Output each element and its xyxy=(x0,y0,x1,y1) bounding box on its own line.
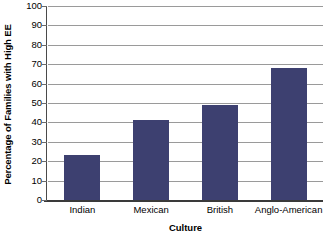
gridline xyxy=(48,25,323,26)
y-axis-tick-mark xyxy=(42,161,47,162)
plot-area xyxy=(48,6,323,200)
y-axis-title-text: Percentage of Families with High EE xyxy=(2,24,13,185)
y-axis-tick-mark xyxy=(42,142,47,143)
x-axis-line xyxy=(44,200,323,202)
x-axis-tick-label: Anglo-American xyxy=(248,204,328,216)
y-axis-tick-label: 60 xyxy=(31,79,42,89)
y-axis-tick-label: 40 xyxy=(31,117,42,127)
y-axis-tick-mark xyxy=(42,25,47,26)
gridline xyxy=(48,64,323,65)
y-axis-tick-mark xyxy=(42,122,47,123)
x-axis-title: Culture xyxy=(48,222,323,233)
y-axis-tick-label: 100 xyxy=(26,1,42,11)
gridline xyxy=(48,45,323,46)
bar xyxy=(271,68,307,200)
y-axis-tick-mark xyxy=(42,103,47,104)
y-axis-tick-mark xyxy=(42,84,47,85)
y-axis-tick-label: 90 xyxy=(31,20,42,30)
y-axis-tick-labels: 0102030405060708090100 xyxy=(14,0,44,200)
y-axis-tick-label: 30 xyxy=(31,137,42,147)
bar xyxy=(64,155,100,200)
bar-chart-figure: Percentage of Families with High EE 0102… xyxy=(0,0,328,247)
y-axis-tick-mark xyxy=(42,45,47,46)
y-axis-tick-label: 10 xyxy=(31,176,42,186)
y-axis-tick-label: 20 xyxy=(31,156,42,166)
y-axis-tick-label: 50 xyxy=(31,98,42,108)
y-axis-tick-label: 70 xyxy=(31,59,42,69)
bar xyxy=(133,120,169,200)
y-axis-title: Percentage of Families with High EE xyxy=(0,0,14,208)
y-axis-tick-mark xyxy=(42,64,47,65)
gridline xyxy=(48,6,323,7)
y-axis-tick-mark xyxy=(42,181,47,182)
y-axis-tick-label: 80 xyxy=(31,40,42,50)
y-axis-tick-mark xyxy=(42,6,47,7)
y-axis-tick-mark xyxy=(42,200,47,201)
bar xyxy=(202,105,238,200)
x-axis-tick-labels: IndianMexicanBritishAnglo-American xyxy=(48,204,323,220)
